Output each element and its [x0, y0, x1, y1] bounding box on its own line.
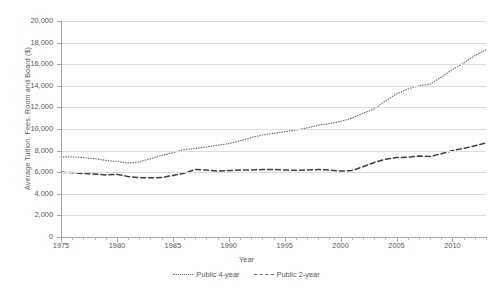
- y-tick-label: 6,000: [9, 168, 53, 175]
- gridline: [61, 86, 486, 87]
- x-tick-mark-minor: [307, 238, 308, 240]
- x-tick-mark-minor: [408, 238, 409, 240]
- x-tick-mark-minor: [464, 238, 465, 240]
- legend-label-public-4-year: Public 4-year: [196, 270, 239, 279]
- x-tick-label: 1995: [265, 241, 305, 250]
- x-tick-mark-minor: [486, 238, 487, 240]
- x-tick-mark-minor: [83, 238, 84, 240]
- y-tick-label: 14,000: [9, 82, 53, 89]
- y-tick-label: 20,000: [9, 17, 53, 24]
- x-tick-mark-minor: [162, 238, 163, 240]
- x-tick-mark-minor: [374, 238, 375, 240]
- gridline: [61, 129, 486, 130]
- x-tick-label: 1985: [153, 241, 193, 250]
- x-tick-mark-minor: [352, 238, 353, 240]
- dotted-line-marker-icon: [173, 274, 193, 275]
- y-tick-label: 8,000: [9, 147, 53, 154]
- chart-legend: Public 4-year Public 2-year: [0, 270, 493, 279]
- plot-area: [61, 21, 486, 237]
- x-tick-mark-minor: [262, 238, 263, 240]
- x-tick-mark-minor: [72, 238, 73, 240]
- x-tick-mark-minor: [475, 238, 476, 240]
- gridline: [61, 107, 486, 108]
- y-tick-label: 12,000: [9, 103, 53, 110]
- dashed-line-marker-icon: [254, 274, 274, 275]
- series-line-public-4-year: [61, 50, 486, 163]
- x-tick-mark-minor: [274, 238, 275, 240]
- x-tick-mark-minor: [128, 238, 129, 240]
- y-tick-label: 0: [9, 233, 53, 240]
- x-tick-mark-minor: [251, 238, 252, 240]
- x-tick-mark-minor: [150, 238, 151, 240]
- y-tick-label: 16,000: [9, 60, 53, 67]
- y-tick-label: 10,000: [9, 125, 53, 132]
- x-tick-mark-minor: [240, 238, 241, 240]
- x-tick-mark-minor: [318, 238, 319, 240]
- gridline: [61, 64, 486, 65]
- x-tick-mark-minor: [296, 238, 297, 240]
- y-tick-label: 18,000: [9, 39, 53, 46]
- gridline: [61, 172, 486, 173]
- x-tick-mark-minor: [184, 238, 185, 240]
- tuition-line-chart: Average Tuition, Fees, Room and Board ($…: [0, 0, 493, 290]
- x-tick-label: 2005: [377, 241, 417, 250]
- legend-entry-public-2-year[interactable]: Public 2-year: [254, 270, 320, 279]
- gridline: [61, 43, 486, 44]
- gridline: [61, 215, 486, 216]
- x-tick-mark-minor: [139, 238, 140, 240]
- gridline: [61, 194, 486, 195]
- x-tick-label: 2000: [321, 241, 361, 250]
- x-tick-mark-minor: [441, 238, 442, 240]
- x-axis-title: Year: [0, 255, 493, 264]
- x-tick-mark-minor: [195, 238, 196, 240]
- x-tick-mark-minor: [329, 238, 330, 240]
- x-tick-label: 2010: [432, 241, 472, 250]
- x-tick-mark-minor: [95, 238, 96, 240]
- x-tick-mark-minor: [385, 238, 386, 240]
- x-tick-mark-minor: [218, 238, 219, 240]
- x-tick-mark-minor: [430, 238, 431, 240]
- legend-label-public-2-year: Public 2-year: [277, 270, 320, 279]
- x-tick-label: 1980: [97, 241, 137, 250]
- x-tick-label: 1990: [209, 241, 249, 250]
- x-tick-mark-minor: [106, 238, 107, 240]
- x-tick-mark-minor: [206, 238, 207, 240]
- x-tick-label: 1975: [41, 241, 81, 250]
- x-tick-mark-minor: [419, 238, 420, 240]
- y-tick-label: 2,000: [9, 211, 53, 218]
- y-axis-line: [61, 21, 62, 238]
- legend-entry-public-4-year[interactable]: Public 4-year: [173, 270, 239, 279]
- y-tick-label: 4,000: [9, 190, 53, 197]
- x-tick-mark-minor: [363, 238, 364, 240]
- gridline: [61, 21, 486, 22]
- gridline: [61, 151, 486, 152]
